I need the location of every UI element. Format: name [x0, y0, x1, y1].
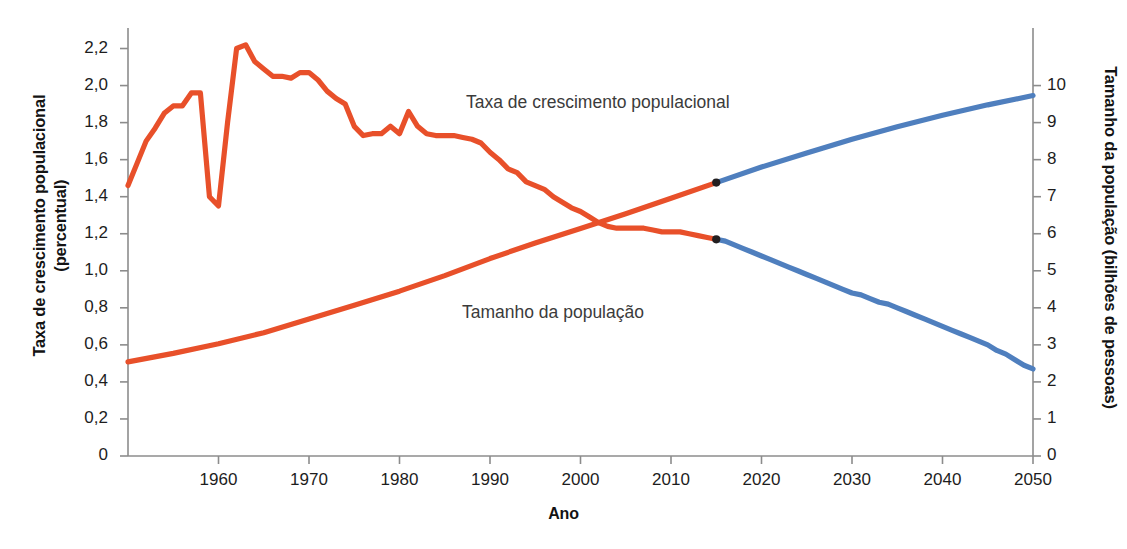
- right-axis-tick-label: 8: [1047, 149, 1087, 169]
- right-axis-tick-label: 1: [1047, 408, 1087, 428]
- right-axis-title: Tamanho da população (bilhões de pessoas…: [1101, 28, 1120, 448]
- left-axis-tick-label: 0,2: [62, 408, 108, 428]
- split-markers-layer: [712, 179, 720, 244]
- left-axis-tick-label: 0,8: [62, 297, 108, 317]
- left-axis-tick-label: 1,2: [62, 223, 108, 243]
- split-year-marker-1: [712, 179, 720, 187]
- left-axis-title-line1: Taxa de crescimento populacional: [29, 36, 50, 416]
- x-axis-tick-label: 2030: [812, 470, 892, 490]
- right-axis-tick-label: 10: [1047, 75, 1087, 95]
- left-axis-tick-label: 1,6: [62, 149, 108, 169]
- left-axis-tick-label: 0: [62, 445, 108, 465]
- right-axis-tick-label: 4: [1047, 297, 1087, 317]
- right-axis-tick-label: 5: [1047, 260, 1087, 280]
- x-axis-tick-label: 1960: [179, 470, 259, 490]
- x-axis-tick-label: 2040: [903, 470, 983, 490]
- left-axis-tick-label: 1,8: [62, 112, 108, 132]
- left-axis-tick-label: 2,0: [62, 75, 108, 95]
- left-axis-tick-label: 1,4: [62, 186, 108, 206]
- right-axis-tick-label: 2: [1047, 371, 1087, 391]
- left-axis-tick-label: 2,2: [62, 38, 108, 58]
- x-axis-tick-label: 1980: [360, 470, 440, 490]
- series-line-historical-1: [128, 183, 716, 362]
- split-year-marker-0: [712, 235, 720, 243]
- left-axis-tick-label: 0,4: [62, 371, 108, 391]
- x-axis-tick-label: 1970: [269, 470, 349, 490]
- right-axis-tick-label: 0: [1047, 445, 1087, 465]
- right-axis-tick-label: 3: [1047, 334, 1087, 354]
- left-axis-tick-label: 0,6: [62, 334, 108, 354]
- left-axis-tick-label: 1,0: [62, 260, 108, 280]
- right-axis-tick-label: 6: [1047, 223, 1087, 243]
- x-axis-tick-label: 1990: [450, 470, 530, 490]
- growth-rate-series-label: Taxa de crescimento populacional: [466, 92, 730, 113]
- right-axis-tick-label: 7: [1047, 186, 1087, 206]
- x-axis-tick-label: 2000: [541, 470, 621, 490]
- right-axis-tick-label: 9: [1047, 112, 1087, 132]
- x-axis-tick-label: 2010: [631, 470, 711, 490]
- population-size-series-label: Tamanho da população: [462, 302, 644, 323]
- series-line-projection-0: [716, 239, 1033, 369]
- population-chart-figure: Taxa de crescimento populacional (percen…: [0, 0, 1127, 549]
- x-axis-title: Ano: [0, 505, 1127, 523]
- x-axis-tick-label: 2020: [722, 470, 802, 490]
- x-axis-tick-label: 2050: [993, 470, 1073, 490]
- plot-area: [0, 0, 1127, 549]
- series-line-projection-1: [716, 96, 1033, 183]
- series-line-historical-0: [128, 45, 716, 239]
